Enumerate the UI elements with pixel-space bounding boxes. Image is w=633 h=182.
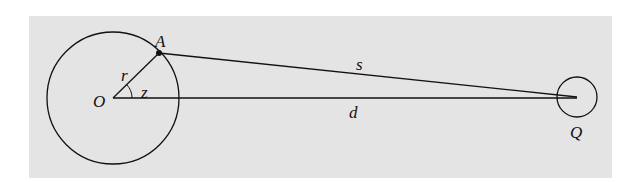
label-center-o: O xyxy=(93,93,105,110)
angle-arc-z xyxy=(127,85,133,99)
label-point-q: Q xyxy=(570,124,582,141)
label-radius-r: r xyxy=(121,67,128,84)
label-point-a: A xyxy=(155,33,165,50)
diagram-svg xyxy=(0,0,633,182)
label-segment-d: d xyxy=(349,104,358,121)
label-segment-s: s xyxy=(356,56,363,73)
label-angle-z: z xyxy=(141,84,148,101)
segment-line-s xyxy=(159,53,577,97)
radius-line-r xyxy=(113,53,159,98)
